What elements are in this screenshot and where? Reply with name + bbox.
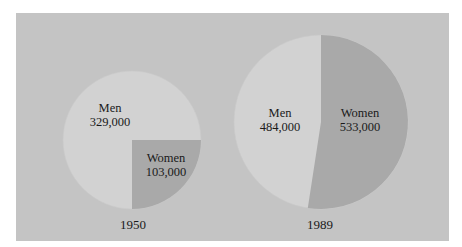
women-value-text: 103,000 bbox=[146, 165, 187, 179]
men-value-text: 329,000 bbox=[90, 115, 131, 129]
pie-1989-men-label: Men 484,000 bbox=[260, 106, 301, 134]
women-label-text: Women bbox=[146, 151, 187, 165]
pie-1950 bbox=[63, 71, 201, 209]
men-label-text: Men bbox=[90, 101, 131, 115]
women-value-text: 533,000 bbox=[340, 120, 381, 134]
pie-1989-year-label: 1989 bbox=[307, 218, 333, 232]
men-value-text: 484,000 bbox=[260, 120, 301, 134]
women-label-text: Women bbox=[340, 106, 381, 120]
pie-1950-men-label: Men 329,000 bbox=[90, 101, 131, 129]
pie-1989-women-label: Women 533,000 bbox=[340, 106, 381, 134]
pie-1950-women-label: Women 103,000 bbox=[146, 151, 187, 179]
men-label-text: Men bbox=[260, 106, 301, 120]
pie-1950-year-label: 1950 bbox=[120, 218, 146, 232]
pie-charts bbox=[0, 0, 462, 247]
